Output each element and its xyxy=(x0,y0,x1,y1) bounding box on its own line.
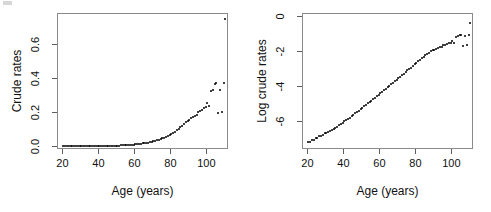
data-point xyxy=(423,56,425,58)
x-tick xyxy=(343,149,344,154)
x-tick-label: 40 xyxy=(337,158,349,169)
data-point xyxy=(361,107,363,109)
y-tick xyxy=(297,121,302,122)
plot-frame-left xyxy=(57,13,228,149)
data-point xyxy=(405,71,407,73)
data-point xyxy=(441,46,443,48)
data-point xyxy=(181,125,183,127)
data-point xyxy=(381,91,383,93)
data-point xyxy=(460,34,462,36)
data-point xyxy=(224,18,226,20)
x-tick-label: 80 xyxy=(164,158,176,169)
x-tick xyxy=(134,149,135,154)
data-point xyxy=(365,104,367,106)
data-point xyxy=(183,123,185,125)
x-tick xyxy=(170,149,171,154)
x-tick xyxy=(98,149,99,154)
data-point xyxy=(178,128,180,130)
data-point xyxy=(316,137,318,139)
y-tick xyxy=(52,78,57,79)
y-tick xyxy=(52,146,57,147)
x-tick-label: 100 xyxy=(442,158,460,169)
data-point xyxy=(219,89,221,91)
y-tick xyxy=(52,112,57,113)
plot-frame-right xyxy=(302,13,473,149)
data-point xyxy=(309,141,311,143)
data-point xyxy=(212,89,214,91)
data-point xyxy=(358,110,360,112)
data-point xyxy=(217,112,219,114)
data-point xyxy=(462,45,464,47)
plot-area-right xyxy=(303,14,472,148)
data-point xyxy=(188,119,190,121)
x-axis-title-left: Age (years) xyxy=(111,185,173,197)
figure-container: 204060801000.00.20.40.6 Age (years) Crud… xyxy=(0,0,491,212)
y-tick xyxy=(297,51,302,52)
data-point xyxy=(392,82,394,84)
x-tick xyxy=(62,149,63,154)
data-point xyxy=(313,139,315,141)
y-tick xyxy=(52,44,57,45)
x-tick-label: 60 xyxy=(128,158,140,169)
data-point xyxy=(385,88,387,90)
y-tick xyxy=(297,86,302,87)
y-tick-label: -6 xyxy=(275,107,286,137)
data-point xyxy=(208,105,210,107)
data-point xyxy=(457,35,459,37)
y-tick-label: 0.6 xyxy=(30,29,41,59)
data-point xyxy=(322,134,324,136)
plot-area-left xyxy=(58,14,227,148)
y-axis-title-right: Log crude rates xyxy=(256,13,268,149)
x-tick xyxy=(206,149,207,154)
y-tick-label: 0 xyxy=(275,2,286,32)
data-point xyxy=(453,42,455,44)
data-point xyxy=(197,111,199,113)
x-tick xyxy=(379,149,380,154)
data-point xyxy=(196,114,198,116)
x-axis-title-right: Age (years) xyxy=(356,185,418,197)
x-tick-label: 40 xyxy=(92,158,104,169)
panel-log-crude-rates: 204060801000-2-4-6 Age (years) Log crude… xyxy=(246,0,491,212)
data-point xyxy=(419,59,421,61)
data-point xyxy=(469,22,471,24)
x-tick-label: 80 xyxy=(409,158,421,169)
data-point xyxy=(450,42,452,44)
data-point xyxy=(466,44,468,46)
x-tick-label: 60 xyxy=(373,158,385,169)
data-point xyxy=(412,65,414,67)
y-tick-label: 0.2 xyxy=(30,97,41,127)
x-tick xyxy=(451,149,452,154)
data-point xyxy=(223,82,225,84)
y-tick-label: -4 xyxy=(275,72,286,102)
x-tick-label: 20 xyxy=(56,158,68,169)
data-point xyxy=(206,102,208,104)
data-point xyxy=(215,82,217,84)
data-point xyxy=(415,62,417,64)
data-point xyxy=(464,35,466,37)
data-point xyxy=(205,106,207,108)
data-point xyxy=(221,111,223,113)
x-tick xyxy=(415,149,416,154)
data-point xyxy=(374,97,376,99)
y-tick-label: 0.4 xyxy=(30,63,41,93)
panel-crude-rates: 204060801000.00.20.40.6 Age (years) Crud… xyxy=(0,0,245,212)
y-tick xyxy=(297,16,302,17)
data-point xyxy=(378,94,380,96)
y-tick-label: -2 xyxy=(275,37,286,67)
x-tick xyxy=(307,149,308,154)
x-tick-label: 100 xyxy=(197,158,215,169)
data-point xyxy=(468,34,470,36)
data-point xyxy=(336,126,338,128)
x-tick-label: 20 xyxy=(301,158,313,169)
y-axis-title-left: Crude rates xyxy=(11,13,23,149)
y-tick-label: 0.0 xyxy=(30,131,41,161)
data-point xyxy=(403,73,405,75)
data-point xyxy=(349,117,351,119)
data-point xyxy=(174,131,176,133)
